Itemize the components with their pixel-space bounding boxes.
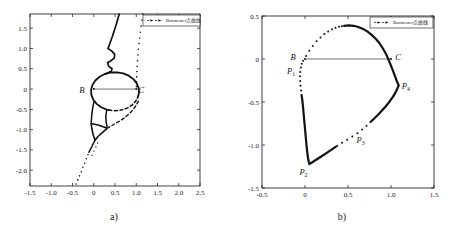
point-label-C: C — [138, 85, 144, 95]
y-tick-label: -0.5 — [16, 106, 28, 114]
x-tick-label: 1.5 — [430, 191, 439, 199]
curve-dot-asymptote-dots-top — [136, 81, 138, 83]
curve-dot-knot-dots-inner — [93, 150, 94, 151]
curve-arc-bottom-solid — [302, 95, 336, 164]
x-tick-label: -0.5 — [67, 189, 79, 197]
curve-dot-arc-left-dots — [299, 71, 301, 73]
curve-right-descender — [106, 110, 107, 128]
curve-dot-asymptote-dots-top — [142, 13, 144, 15]
point-label-P3: P3 — [356, 135, 365, 146]
curve-dot-arc-left-dots — [301, 63, 303, 65]
y-tick-label: -1.5 — [248, 185, 260, 193]
point-label-P2: P2 — [298, 167, 307, 178]
y-tick-label: 1.5 — [18, 25, 27, 33]
x-tick-label: 1.0 — [387, 191, 396, 199]
curve-dot-asymptote-dots-top — [140, 25, 142, 27]
x-tick-label: -1.5 — [24, 189, 36, 197]
curve-dot-arc-right-dots — [365, 125, 367, 127]
curve-dot-asymptote-dots-top — [138, 43, 140, 45]
legend-marker-dot — [385, 22, 387, 24]
curve-dot-arc-topleft-dots — [338, 26, 340, 28]
curve-dot-asymptote-dots-top — [138, 48, 140, 50]
curve-dot-arc-topleft-dots — [323, 33, 325, 35]
plot-a: -1.5-1.0-0.500.51.01.52.02.51.51.00.50-0… — [0, 0, 228, 234]
curve-upper-squiggle — [105, 14, 119, 74]
y-tick-label: 0.5 — [250, 13, 259, 21]
curve-dot-asymptote-dots-top — [136, 66, 138, 68]
y-tick-label: -1.0 — [248, 142, 260, 150]
x-tick-label: 0.5 — [344, 191, 353, 199]
caption-a: a) — [0, 211, 228, 222]
point-label-B: B — [290, 52, 295, 62]
point-label-P4: P4 — [401, 81, 410, 92]
x-tick-label: 2.0 — [174, 189, 183, 197]
legend-label: Burmester点曲线 — [166, 17, 201, 24]
x-tick-label: 0.5 — [111, 189, 120, 197]
curve-dot-asymptote-dots-top — [139, 31, 141, 33]
y-tick-label: 0.5 — [18, 65, 27, 73]
curve-dot-asymptote-dots-bottom — [82, 167, 84, 169]
curve-dot-knot-dots-inner — [91, 154, 92, 155]
curve-dot-asymptote-dots-bottom — [84, 162, 86, 164]
legend-marker-dot — [377, 22, 379, 24]
curve-dot-knot-dots-inner — [95, 146, 96, 147]
burmester-curve-figure: -1.5-1.0-0.500.51.01.52.02.51.51.00.50-0… — [0, 0, 456, 234]
point-B-marker — [304, 58, 306, 60]
x-tick-label: 0 — [303, 191, 307, 199]
y-tick-label: -2.0 — [16, 167, 28, 175]
plot-b-canvas: -0.500.51.01.50.50-0.5-1.0-1.5BCP1P2P3P4… — [228, 0, 456, 206]
axes-box — [262, 16, 434, 188]
curve-dot-arc-topleft-dots — [305, 55, 307, 57]
curve-dot-arc-right-dots — [356, 132, 358, 134]
curve-dot-arc-topleft-dots — [327, 30, 329, 32]
curve-dot-asymptote-dots-top — [141, 19, 143, 21]
plot-b: -0.500.51.01.50.50-0.5-1.0-1.5BCP1P2P3P4… — [228, 0, 456, 234]
curve-dot-arc-right-dots — [346, 139, 348, 141]
y-tick-label: -1.5 — [16, 146, 28, 154]
curve-dot-asymptote-dots-top — [137, 54, 139, 56]
y-tick-label: -0.5 — [248, 99, 260, 107]
curve-dot-asymptote-dots-top — [136, 71, 138, 73]
curve-oval-dashed — [109, 98, 138, 111]
point-C-marker — [390, 58, 392, 60]
legend-label: Burmester点曲线 — [393, 19, 428, 26]
curve-left-descender — [91, 102, 94, 124]
curve-dot-asymptote-dots-top — [136, 86, 138, 88]
y-tick-label: 0 — [24, 86, 28, 94]
curve-dot-arc-topleft-dots — [312, 45, 314, 47]
point-label-B: B — [79, 85, 84, 95]
axes-box — [30, 14, 200, 186]
curve-dot-arc-left-dots — [299, 75, 301, 77]
curve-dot-arc-right-dots — [351, 135, 353, 137]
curve-dot-asymptote-dots-bottom — [79, 175, 81, 177]
curve-dot-asymptote-dots-bottom — [87, 154, 89, 156]
curve-dot-arc-left-dots — [300, 67, 302, 69]
curve-dot-asymptote-dots-top — [139, 37, 141, 39]
curve-dot-arc-topleft-dots — [335, 27, 337, 29]
point-C-marker — [135, 88, 137, 90]
plot-a-canvas: -1.5-1.0-0.500.51.01.52.02.51.51.00.50-0… — [0, 0, 228, 206]
curve-dot-arc-topleft-dots — [316, 40, 318, 42]
y-tick-label: 0 — [256, 56, 260, 64]
curve-dot-arc-right-dots — [341, 142, 343, 144]
x-tick-label: 0 — [92, 189, 96, 197]
curve-dot-knot-dots-inner — [97, 142, 98, 143]
curve-lower-dashed-branch — [108, 101, 138, 127]
curve-dot-asymptote-dots-bottom — [80, 171, 82, 173]
point-label-C: C — [395, 52, 401, 62]
curve-dot-asymptote-dots-bottom — [77, 179, 79, 181]
curve-dot-arc-right-dots — [361, 129, 363, 131]
x-tick-label: 1.5 — [153, 189, 162, 197]
curve-dot-arc-left-dots — [300, 89, 302, 91]
x-tick-label: 2.5 — [196, 189, 205, 197]
curve-dot-arc-topleft-dots — [308, 50, 310, 52]
curve-arc-main-solid — [344, 25, 399, 121]
x-tick-label: 1.0 — [132, 189, 141, 197]
point-B-marker — [93, 88, 95, 90]
curve-dot-arc-left-dots — [300, 85, 302, 87]
curve-dot-arc-topleft-dots — [331, 28, 333, 30]
point-label-P1: P1 — [286, 66, 295, 77]
y-tick-label: -1.0 — [16, 126, 28, 134]
curve-dot-asymptote-dots-top — [137, 60, 139, 62]
curve-dot-arc-topleft-dots — [341, 25, 343, 27]
